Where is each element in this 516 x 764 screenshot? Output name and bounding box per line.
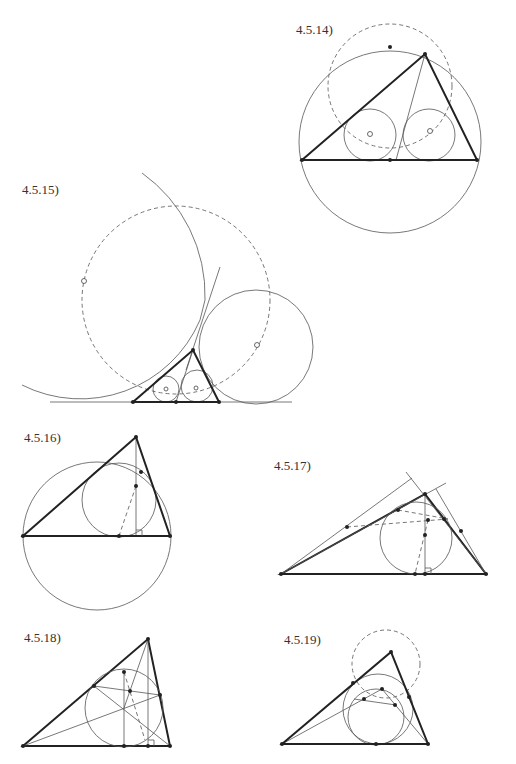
diagram-4-5-16 (21, 435, 172, 610)
diagram-4-5-19 (280, 630, 430, 746)
diagram-4-5-14 (299, 24, 481, 233)
diagram-4-5-15 (22, 173, 313, 404)
diagram-4-5-18 (21, 637, 172, 748)
diagram-4-5-17 (279, 472, 488, 576)
geometry-diagrams (0, 0, 516, 764)
